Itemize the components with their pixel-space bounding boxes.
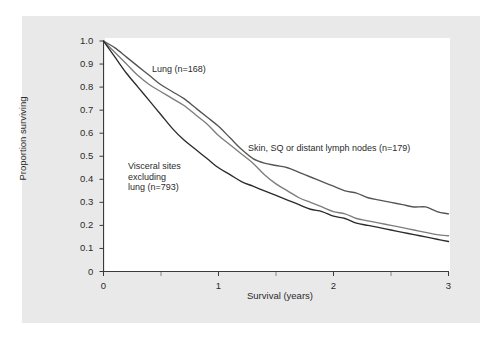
x-tick-label: 3 xyxy=(439,280,459,291)
y-tick-label: 0.8 xyxy=(68,81,94,92)
y-tick-label: 0.6 xyxy=(68,127,94,138)
x-tick-label: 1 xyxy=(209,280,229,291)
y-tick-label: 0.3 xyxy=(68,196,94,207)
y-tick-label: 0 xyxy=(68,266,94,277)
y-axis-title: Proportion surviving xyxy=(17,79,28,199)
y-tick-label: 1.0 xyxy=(68,35,94,46)
x-axis-title: Survival (years) xyxy=(215,290,345,301)
y-tick-label: 0.1 xyxy=(68,242,94,253)
x-tick-label: 2 xyxy=(324,280,344,291)
axis-ticks xyxy=(100,41,449,276)
y-tick-label: 0.5 xyxy=(68,150,94,161)
annotation-skin-sq-lymph: Skin, SQ or distant lymph nodes (n=179) xyxy=(248,143,410,154)
y-tick-label: 0.2 xyxy=(68,219,94,230)
annotation-visceral-sites: Visceral sites excluding lung (n=793) xyxy=(128,161,181,193)
x-tick-label: 0 xyxy=(94,280,114,291)
figure-container: 00.10.20.30.40.50.60.70.80.91.0 0123 Pro… xyxy=(0,0,503,340)
annotation-lung: Lung (n=168) xyxy=(152,64,206,75)
y-tick-label: 0.7 xyxy=(68,104,94,115)
y-tick-label: 0.4 xyxy=(68,173,94,184)
chart-svg xyxy=(0,0,503,340)
y-tick-label: 0.9 xyxy=(68,58,94,69)
